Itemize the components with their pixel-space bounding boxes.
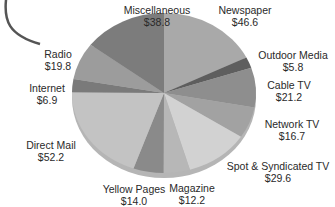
label-yellow-pages: Yellow Pages $14.0	[98, 183, 170, 207]
label-newspaper: Newspaper $46.6	[210, 4, 280, 28]
label-outdoor-media: Outdoor Media $5.8	[251, 49, 335, 73]
callout-curve	[6, 0, 40, 44]
label-direct-mail: Direct Mail $52.2	[20, 139, 82, 163]
label-network-tv: Network TV $16.7	[257, 118, 327, 142]
label-cable-tv: Cable TV $21.2	[258, 79, 320, 103]
label-miscellaneous: Miscellaneous $38.8	[112, 4, 202, 28]
label-spot-syndicated-tv: Spot & Syndicated TV $29.6	[222, 160, 334, 184]
label-radio: Radio $19.8	[38, 48, 78, 72]
label-magazine: Magazine $12.2	[162, 182, 222, 206]
label-internet: Internet $6.9	[22, 82, 72, 106]
pie-slices	[72, 13, 256, 173]
